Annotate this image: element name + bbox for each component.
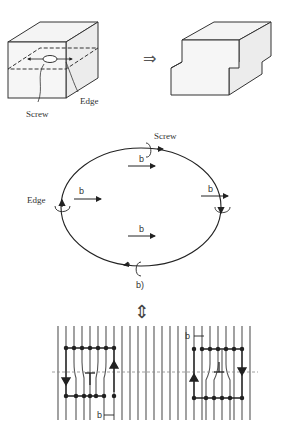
b-label-circuit-right: b [185, 331, 190, 341]
implies-arrow: ⇒ [143, 49, 156, 68]
b-label-left: b [79, 186, 84, 196]
label-screw-a: Screw [26, 109, 49, 119]
label-edge-a: Edge [80, 96, 99, 106]
b-label-circuit-left: b [97, 410, 102, 420]
label-edge-b: Edge [27, 195, 46, 205]
sheared-block [171, 22, 271, 95]
caption-b: b) [136, 280, 144, 290]
dislocation-diagram: Screw Edge ⇒ b b b b Screw Edge b) ⇕ [0, 0, 282, 441]
equivalence-arrow: ⇕ [134, 301, 149, 322]
burgers-vectors [74, 166, 228, 236]
label-screw-b: Screw [154, 131, 177, 141]
b-label-bottom: b [139, 224, 144, 234]
b-label-top: b [139, 154, 144, 164]
cube-with-loop [8, 22, 98, 102]
b-label-right: b [208, 184, 213, 194]
